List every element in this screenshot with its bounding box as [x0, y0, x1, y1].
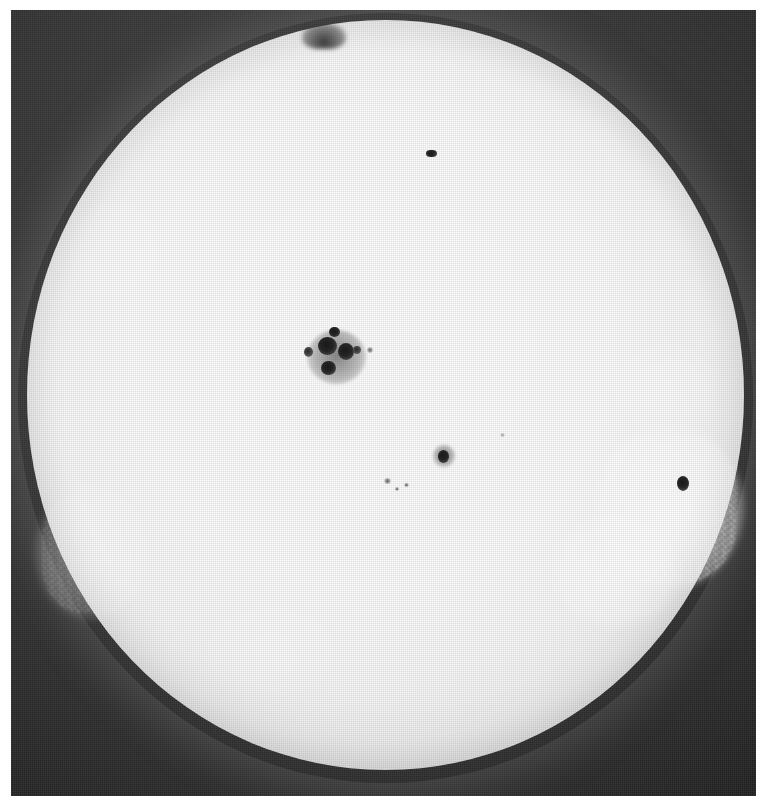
faculae-south	[207, 605, 336, 695]
main-sunspot-umbra-trailing	[338, 343, 354, 360]
main-sunspot-pore-west	[304, 347, 313, 357]
faculae-west-upper	[615, 343, 715, 433]
sunspot-central-south-penumbra	[433, 445, 455, 467]
pore-mid-left	[500, 433, 505, 437]
main-sunspot-umbra-leading	[318, 337, 337, 356]
solar-disk	[27, 20, 744, 770]
main-sunspot-pore-east	[353, 346, 361, 354]
faculae-west-lower-texture	[558, 523, 673, 620]
solar-photograph: Full-disk white-light photograph of the …	[0, 0, 771, 796]
main-sunspot-umbra-south	[321, 361, 335, 375]
limb-darkening-overlay	[27, 20, 744, 770]
faculae-west-lower	[551, 515, 680, 627]
sunspot-central-south	[438, 450, 449, 463]
faculae-north-east	[70, 200, 170, 305]
sunspot-upper	[426, 150, 437, 157]
pore-cluster-south	[384, 478, 390, 484]
main-sunspot-umbra-north	[329, 327, 340, 337]
main-sunspot-group-penumbra	[307, 330, 366, 384]
pore-south-west	[404, 483, 409, 487]
main-sunspot-speck-far-east	[367, 347, 373, 353]
pore-south-west-b	[395, 487, 399, 491]
sunspot-west-limb	[677, 476, 689, 491]
granulation-halftone-texture	[27, 20, 744, 770]
photographic-plate	[11, 10, 756, 796]
image-caption: Full-disk white-light photograph of the …	[0, 21, 1, 22]
